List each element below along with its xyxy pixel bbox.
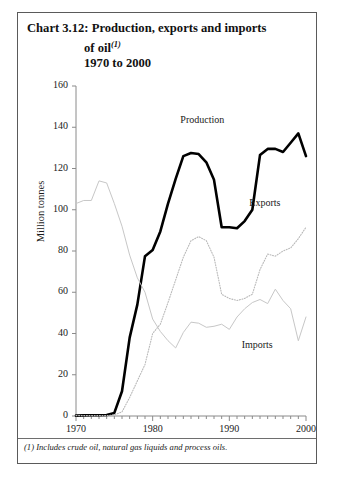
- y-tick-label: 80: [38, 244, 68, 255]
- y-tick-label: 40: [38, 327, 68, 338]
- series-annotation-exports: Exports: [249, 197, 280, 208]
- y-tick-label: 140: [38, 120, 68, 131]
- series-line-production: [76, 133, 306, 415]
- chart-card: Chart 3.12: Production, exports and impo…: [17, 12, 317, 464]
- chart-plot-area: Million tonnes 020406080100120140160 197…: [18, 13, 318, 465]
- data-series: [76, 133, 306, 415]
- y-tick-label: 160: [38, 79, 68, 90]
- x-tick-label: 2000: [286, 423, 326, 434]
- x-tick-label: 1980: [133, 423, 173, 434]
- y-tick-label: 60: [38, 285, 68, 296]
- chart-footnote: (1) Includes crude oil, natural gas liqu…: [24, 442, 312, 452]
- y-tick-label: 20: [38, 368, 68, 379]
- x-tick-label: 1990: [209, 423, 249, 434]
- x-tick-label: 1970: [56, 423, 96, 434]
- series-annotation-production: Production: [180, 114, 224, 125]
- series-annotation-imports: Imports: [242, 339, 273, 350]
- footnote-divider: [18, 438, 316, 439]
- y-tick-label: 100: [38, 203, 68, 214]
- y-tick-label: 0: [38, 409, 68, 420]
- axes: [72, 86, 306, 421]
- series-line-exports: [76, 227, 306, 415]
- y-tick-label: 120: [38, 162, 68, 173]
